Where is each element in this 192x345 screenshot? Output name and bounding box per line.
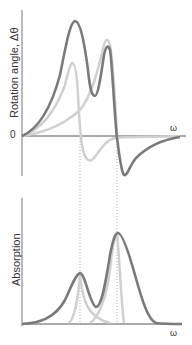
- total-absorption-curve: [22, 233, 182, 324]
- zero-label: 0: [10, 129, 16, 140]
- top-omega-label: ω: [170, 123, 177, 133]
- rotation-plot: [22, 10, 186, 176]
- rotation-axis-label: Rotation angle, Δθ: [8, 27, 20, 118]
- absorption-plot: [22, 198, 182, 326]
- total-rotation-curve: [22, 21, 180, 175]
- diagram-canvas: [0, 0, 192, 345]
- component-curve-2: [22, 40, 117, 136]
- bottom-omega-label: ω: [170, 328, 177, 338]
- absorption-axis-label: Absorption: [10, 233, 22, 286]
